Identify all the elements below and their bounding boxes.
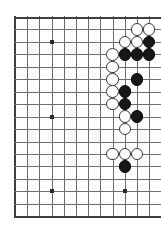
black-stone-k6[interactable] xyxy=(131,73,144,86)
white-stone-j12[interactable] xyxy=(119,148,132,161)
white-stone-j3[interactable] xyxy=(119,36,132,49)
white-stone-j9[interactable] xyxy=(119,110,132,123)
white-stone-h7[interactable] xyxy=(106,85,119,98)
black-stone-j8[interactable] xyxy=(119,98,132,111)
grid-line-horizontal-0 xyxy=(14,17,161,19)
white-stone-j10[interactable] xyxy=(119,123,132,136)
star-point-center-left xyxy=(50,115,54,119)
grid-line-horizontal-16 xyxy=(14,216,161,218)
go-board-diagram xyxy=(0,0,161,237)
grid-line-horizontal-15 xyxy=(14,204,161,205)
grid-line-horizontal-10 xyxy=(14,142,161,143)
star-point-lower-left xyxy=(50,189,54,193)
star-point-lower-right xyxy=(123,189,127,193)
white-stone-h8[interactable] xyxy=(106,98,119,111)
grid-line-horizontal-4 xyxy=(14,67,161,68)
white-stone-k3[interactable] xyxy=(131,36,144,49)
black-stone-j4[interactable] xyxy=(119,48,132,61)
grid-line-horizontal-7 xyxy=(14,104,161,105)
black-stone-j13[interactable] xyxy=(119,160,132,173)
white-stone-h4[interactable] xyxy=(106,48,119,61)
grid-line-horizontal-12 xyxy=(14,166,161,167)
white-stone-k2[interactable] xyxy=(131,23,144,36)
grid-line-horizontal-14 xyxy=(14,191,161,192)
goban-grid[interactable] xyxy=(0,0,161,237)
white-stone-h12[interactable] xyxy=(106,148,119,161)
black-stone-j7[interactable] xyxy=(119,85,132,98)
white-stone-h5[interactable] xyxy=(106,61,119,74)
black-stone-l3[interactable] xyxy=(143,36,156,49)
grid-line-horizontal-6 xyxy=(14,92,161,93)
star-point-upper-left xyxy=(50,40,54,44)
white-stone-h6[interactable] xyxy=(106,73,119,86)
black-stone-l4[interactable] xyxy=(143,48,156,61)
black-stone-k4[interactable] xyxy=(131,48,144,61)
white-stone-k12[interactable] xyxy=(131,148,144,161)
grid-line-horizontal-13 xyxy=(14,179,161,180)
black-stone-k9[interactable] xyxy=(131,110,144,123)
grid-line-horizontal-9 xyxy=(14,129,161,130)
white-stone-l2[interactable] xyxy=(143,23,156,36)
